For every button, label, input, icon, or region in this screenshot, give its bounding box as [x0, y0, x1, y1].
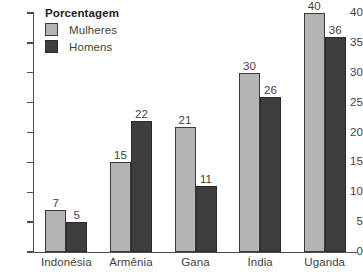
category-label: Gana	[163, 256, 228, 268]
legend-item-mulheres: Mulheres	[45, 23, 119, 36]
bar-homens-gana: 11	[196, 186, 217, 252]
bar-group: 2111	[175, 13, 217, 252]
bar-mulheres-armênia: 15	[110, 162, 131, 252]
bar-value-label: 21	[179, 114, 192, 126]
bar-chart: 0510152025303540 751522211130264036 Indo…	[0, 0, 363, 280]
bar-mulheres-uganda: 40	[304, 13, 325, 252]
y-axis-tick	[27, 42, 34, 43]
legend-swatch-homens-icon	[45, 40, 58, 53]
x-axis-line	[33, 252, 357, 253]
bar-value-label: 26	[264, 84, 277, 96]
legend-label-mulheres: Mulheres	[69, 24, 117, 36]
bar-value-label: 11	[200, 173, 212, 185]
category-label: Índia	[228, 256, 293, 268]
category-label: Uganda	[292, 256, 357, 268]
bar-mulheres-índia: 30	[239, 73, 260, 252]
y-axis-tick	[27, 221, 34, 222]
legend-title: Porcentagem	[45, 7, 119, 19]
bar-mulheres-gana: 21	[175, 127, 196, 252]
legend-item-homens: Homens	[45, 40, 119, 53]
legend-swatch-mulheres-icon	[45, 23, 58, 36]
y-axis-tick	[27, 12, 34, 13]
y-axis-tick	[27, 102, 34, 103]
bar-mulheres-indonésia: 7	[45, 210, 66, 252]
bar-group: 4036	[304, 13, 346, 252]
y-axis-tick	[27, 162, 34, 163]
bar-value-label: 22	[135, 108, 148, 120]
legend-label-homens: Homens	[69, 41, 112, 53]
bar-value-label: 30	[243, 60, 256, 72]
bar-value-label: 36	[329, 24, 342, 36]
category-label: Armênia	[99, 256, 164, 268]
y-axis-tick	[27, 192, 34, 193]
bar-value-label: 40	[308, 0, 321, 12]
bar-value-label: 7	[53, 197, 60, 209]
bar-homens-armênia: 22	[131, 121, 152, 252]
y-axis-tick	[27, 251, 34, 252]
bar-homens-uganda: 36	[325, 37, 346, 252]
chart-legend: Porcentagem Mulheres Homens	[45, 7, 119, 53]
bar-value-label: 15	[114, 149, 127, 161]
bar-value-label: 5	[74, 209, 81, 221]
bar-group: 3026	[239, 13, 281, 252]
y-axis-tick	[27, 132, 34, 133]
y-axis-tick	[27, 72, 34, 73]
bar-homens-indonésia: 5	[66, 222, 87, 252]
bar-homens-índia: 26	[260, 97, 281, 252]
category-label: Indonésia	[34, 256, 99, 268]
